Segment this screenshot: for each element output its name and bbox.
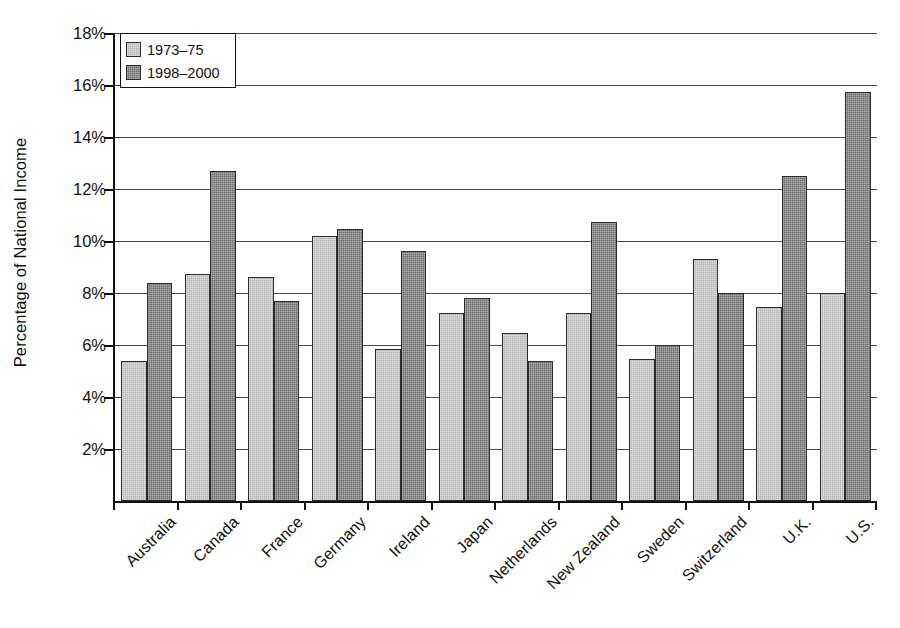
- x-axis-tick-label: Japan: [453, 513, 497, 557]
- bar: [439, 313, 465, 502]
- x-axis-tick-label: Australia: [122, 513, 179, 570]
- x-axis-tick-mark: [367, 501, 369, 510]
- x-axis-tick-mark: [304, 501, 306, 510]
- legend: 1973–75 1998–2000: [120, 33, 236, 88]
- y-axis-tick-label: 8%: [44, 284, 106, 303]
- x-axis-tick-label: Sweden: [633, 513, 687, 567]
- x-axis-tick-label: Switzerland: [679, 513, 751, 585]
- x-axis-tick-mark: [240, 501, 242, 510]
- y-axis-tick-label: 4%: [44, 388, 106, 407]
- bar: [401, 251, 427, 501]
- y-axis-tick-label: 16%: [44, 76, 106, 95]
- legend-swatch-icon: [126, 42, 141, 57]
- bar: [845, 92, 871, 502]
- bar: [655, 345, 681, 501]
- x-axis-tick-mark: [748, 501, 750, 510]
- x-axis-tick-label: France: [258, 513, 306, 561]
- bar: [274, 301, 300, 501]
- bar: [312, 236, 338, 501]
- plot-area: [113, 33, 877, 503]
- bar: [693, 259, 719, 501]
- bar: [629, 359, 655, 501]
- y-axis-tick-label: 14%: [44, 128, 106, 147]
- y-axis-tick-label: 6%: [44, 336, 106, 355]
- bar: [147, 283, 173, 501]
- bar: [121, 361, 147, 501]
- x-axis-tick-label: U.S.: [843, 513, 878, 548]
- x-axis-tick-mark: [177, 501, 179, 510]
- x-axis-tick-mark: [621, 501, 623, 510]
- bar: [248, 277, 274, 501]
- legend-label: 1973–75: [147, 42, 203, 58]
- bar-chart: Percentage of National Income 2%4%6%8%10…: [0, 0, 900, 628]
- x-axis-tick-label: Germany: [310, 513, 370, 573]
- y-axis-title: Percentage of National Income: [0, 0, 40, 505]
- bar: [718, 293, 744, 501]
- bar: [337, 229, 363, 501]
- y-axis-tick-label: 2%: [44, 440, 106, 459]
- x-axis-tick-mark: [431, 501, 433, 510]
- x-axis-tick-mark: [812, 501, 814, 510]
- bar: [210, 171, 236, 501]
- legend-item: 1998–2000: [126, 61, 230, 84]
- y-axis-tick-label: 12%: [44, 180, 106, 199]
- x-axis-tick-mark: [494, 501, 496, 510]
- bar: [375, 349, 401, 501]
- gridline: [115, 137, 877, 138]
- x-axis-tick-label: Canada: [190, 513, 243, 566]
- bar: [464, 298, 490, 501]
- bar: [566, 313, 592, 502]
- x-axis-tick-mark: [113, 501, 115, 510]
- x-axis-tick-mark: [875, 501, 877, 510]
- bar: [782, 176, 808, 501]
- x-axis-tick-label: U.K.: [779, 513, 814, 548]
- x-axis-tick-mark: [558, 501, 560, 510]
- bar: [185, 274, 211, 502]
- legend-label: 1998–2000: [147, 65, 220, 81]
- bar: [591, 222, 617, 502]
- y-axis-tick-label: 18%: [44, 24, 106, 43]
- y-axis-tick-label: 10%: [44, 232, 106, 251]
- bar: [528, 361, 554, 501]
- x-axis-tick-mark: [685, 501, 687, 510]
- legend-swatch-icon: [126, 65, 141, 80]
- x-axis-tick-label: Ireland: [386, 513, 434, 561]
- bar: [756, 307, 782, 501]
- bar: [502, 333, 528, 501]
- legend-item: 1973–75: [126, 38, 230, 61]
- bar: [820, 293, 846, 501]
